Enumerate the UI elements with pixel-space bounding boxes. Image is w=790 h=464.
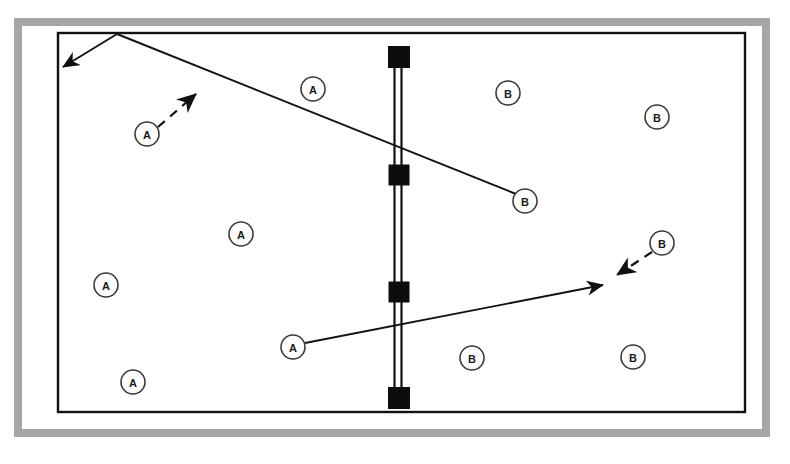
net-post-top: [388, 46, 410, 68]
player-marker-label: A: [129, 377, 137, 389]
net-post-upper-middle: [389, 165, 410, 186]
net-post-bottom: [388, 387, 410, 409]
player-marker-a5[interactable]: A: [281, 335, 305, 359]
player-marker-label: A: [309, 84, 317, 96]
player-marker-label: B: [629, 352, 637, 364]
net-post-lower-middle: [389, 282, 410, 303]
player-marker-b2[interactable]: B: [645, 105, 669, 129]
player-marker-label: B: [468, 353, 476, 365]
player-marker-b3[interactable]: B: [513, 189, 537, 213]
player-marker-label: B: [521, 196, 529, 208]
player-marker-label: A: [237, 229, 245, 241]
player-marker-b5[interactable]: B: [460, 346, 484, 370]
player-marker-label: B: [658, 238, 666, 250]
player-marker-label: B: [653, 112, 661, 124]
player-marker-a4[interactable]: A: [94, 273, 118, 297]
player-marker-a2[interactable]: A: [135, 122, 159, 146]
player-marker-b6[interactable]: B: [621, 345, 645, 369]
court-diagram-svg: AAAAAABBBBBB: [0, 0, 790, 464]
player-marker-label: A: [143, 129, 151, 141]
player-marker-label: A: [289, 342, 297, 354]
player-marker-label: B: [504, 88, 512, 100]
player-marker-a3[interactable]: A: [229, 222, 253, 246]
diagram-canvas: AAAAAABBBBBB: [0, 0, 790, 464]
player-marker-a6[interactable]: A: [121, 370, 145, 394]
player-marker-b4[interactable]: B: [650, 231, 674, 255]
player-marker-b1[interactable]: B: [496, 81, 520, 105]
player-marker-label: A: [102, 280, 110, 292]
player-marker-a1[interactable]: A: [301, 77, 325, 101]
